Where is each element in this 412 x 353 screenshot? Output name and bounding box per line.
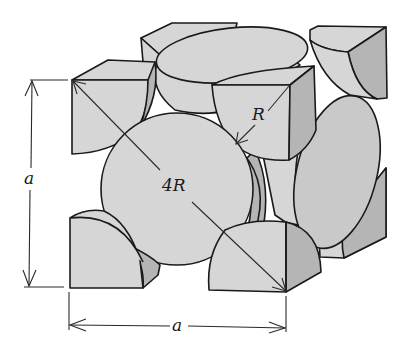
label-a-vertical: a bbox=[24, 168, 34, 188]
label-4r: 4R bbox=[161, 175, 186, 195]
label-r: R bbox=[251, 104, 265, 124]
label-a-horizontal: a bbox=[172, 315, 182, 335]
atom-corner-back-top-right bbox=[310, 26, 387, 99]
vertical-dimension-a: a bbox=[23, 80, 68, 287]
horizontal-dimension-a: a bbox=[69, 292, 286, 335]
atom-corner-front-bottom-right bbox=[209, 221, 321, 292]
fcc-unit-cell-diagram: 4R R a a bbox=[0, 0, 412, 353]
